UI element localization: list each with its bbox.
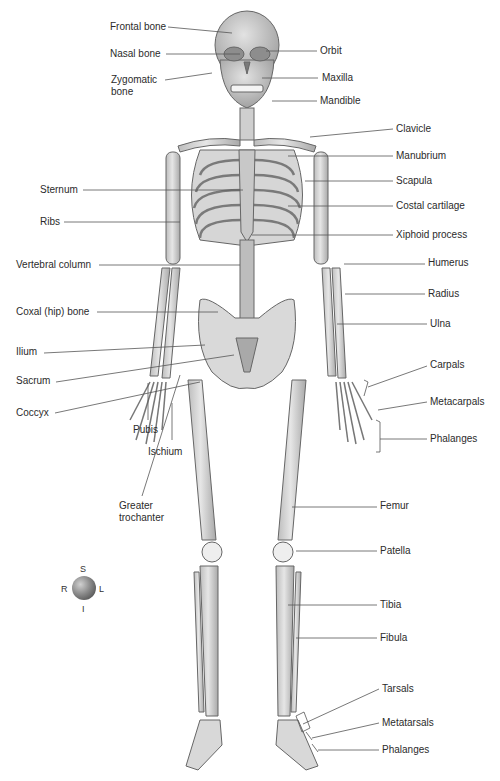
label-line: Greater xyxy=(119,500,164,512)
label-maxilla: Maxilla xyxy=(322,72,353,84)
leader-zygomatic-bone xyxy=(165,73,212,80)
orientation-compass: S I R L xyxy=(58,562,108,622)
compass-superior: S xyxy=(80,564,86,574)
label-xiphoid-process: Xiphoid process xyxy=(396,229,467,241)
leader-carpals xyxy=(368,366,427,387)
label-sacrum: Sacrum xyxy=(16,375,50,387)
label-ribs: Ribs xyxy=(40,216,60,228)
leader-metatarsals xyxy=(312,723,379,738)
label-line: Zygomatic xyxy=(111,74,157,86)
compass-left: L xyxy=(99,584,104,594)
label-ilium: Ilium xyxy=(16,346,37,358)
label-carpals: Carpals xyxy=(430,359,464,371)
label-coxal-hip-bone: Coxal (hip) bone xyxy=(16,306,89,318)
label-tibia: Tibia xyxy=(380,599,401,611)
label-pubis: Pubis xyxy=(133,424,158,436)
label-metacarpals: Metacarpals xyxy=(430,396,484,408)
label-tarsals: Tarsals xyxy=(382,683,414,695)
label-frontal-bone: Frontal bone xyxy=(110,21,166,33)
label-phalanges-foot: Phalanges xyxy=(382,744,429,756)
leader-ilium xyxy=(44,345,205,353)
bones xyxy=(130,11,372,770)
label-patella: Patella xyxy=(380,545,411,557)
leader-clavicle xyxy=(310,129,393,137)
label-femur: Femur xyxy=(380,500,409,512)
leader-tarsals xyxy=(303,689,379,724)
leader-lines xyxy=(44,27,427,750)
label-ischium: Ischium xyxy=(148,446,182,458)
brackets xyxy=(296,380,380,752)
label-greater-trochanter: Greatertrochanter xyxy=(119,500,164,524)
label-zygomatic-bone: Zygomaticbone xyxy=(111,74,157,98)
label-fibula: Fibula xyxy=(380,632,407,644)
skeleton-illustration xyxy=(0,0,500,781)
label-manubrium: Manubrium xyxy=(396,150,446,162)
leader-coccyx xyxy=(55,382,200,413)
label-orbit: Orbit xyxy=(320,45,342,57)
label-ulna: Ulna xyxy=(430,318,451,330)
label-metatarsals: Metatarsals xyxy=(382,717,434,729)
compass-inferior: I xyxy=(82,604,85,614)
label-nasal-bone: Nasal bone xyxy=(110,48,161,60)
label-coccyx: Coccyx xyxy=(16,407,49,419)
label-vertebral-column: Vertebral column xyxy=(16,259,91,271)
skeleton-diagram: Frontal boneNasal boneZygomaticboneStern… xyxy=(0,0,500,781)
label-humerus: Humerus xyxy=(428,257,469,269)
label-costal-cartilage: Costal cartilage xyxy=(396,200,465,212)
label-phalanges-hand: Phalanges xyxy=(430,433,477,445)
compass-right: R xyxy=(61,584,68,594)
label-line: trochanter xyxy=(119,512,164,524)
label-mandible: Mandible xyxy=(320,95,361,107)
label-sternum: Sternum xyxy=(40,184,78,196)
compass-sphere-icon xyxy=(72,576,96,600)
label-clavicle: Clavicle xyxy=(396,123,431,135)
label-radius: Radius xyxy=(428,288,459,300)
leader-metacarpals xyxy=(378,402,427,410)
label-scapula: Scapula xyxy=(396,175,432,187)
leader-sacrum xyxy=(56,355,234,382)
label-line: bone xyxy=(111,86,157,98)
